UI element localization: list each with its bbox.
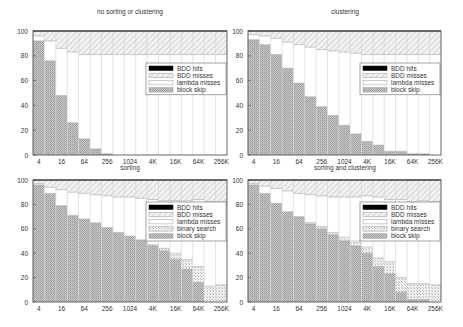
bar-segment: [282, 212, 293, 302]
bar-segment: [316, 31, 327, 50]
y-tick-label: 0: [239, 299, 243, 306]
bar-segment: [271, 38, 282, 54]
bar-segment: [293, 31, 304, 45]
chart-panel-3: 0204060801004166425610244K16K64K256Ksort…: [17, 164, 229, 312]
x-tick-label: 4: [37, 158, 41, 165]
y-tick-label: 60: [236, 225, 244, 232]
bar-segment: [259, 36, 270, 45]
y-tick-label: 20: [236, 274, 244, 281]
bar-segment: [316, 196, 327, 227]
bar-segment: [339, 237, 350, 241]
bar-segment: [282, 68, 293, 155]
bar-segment: [33, 36, 44, 41]
legend-label: BDD hits: [391, 204, 417, 211]
bar-segment: [316, 180, 327, 196]
bar-segment: [259, 193, 270, 302]
bar-segment: [293, 180, 304, 193]
bar-segment: [33, 41, 44, 155]
chart-panel-1: 0204060801004166425610244K16K64K256Kno s…: [17, 8, 229, 165]
bar-segment: [316, 229, 327, 302]
bar-segment: [33, 185, 44, 302]
bar-segment: [216, 31, 227, 55]
legend-swatch: [363, 234, 387, 239]
bar-segment: [362, 253, 373, 302]
bar-segment: [384, 31, 395, 55]
legend-label: BDD misses: [391, 72, 428, 79]
bar-segment: [259, 45, 270, 155]
legend-swatch: [363, 212, 387, 217]
y-tick-label: 60: [21, 77, 29, 84]
chart-title: sorting and clustering: [314, 164, 376, 172]
bar-segment: [170, 180, 181, 201]
bar-segment: [159, 180, 170, 201]
bar-segment: [44, 180, 55, 187]
legend-swatch: [149, 88, 173, 93]
bar-segment: [339, 125, 350, 155]
bar-segment: [305, 180, 316, 195]
legend-swatch: [363, 80, 387, 85]
bar-segment: [339, 180, 350, 197]
bar-segment: [113, 55, 124, 155]
x-tick-label: 256: [102, 305, 113, 312]
y-tick-label: 40: [21, 250, 29, 257]
bar-segment: [396, 278, 407, 293]
legend: BDD hitsBDD misseslambda missesbinary se…: [146, 202, 226, 241]
bar-segment: [124, 55, 135, 155]
bar-segment: [101, 228, 112, 302]
bar-segment: [44, 187, 55, 193]
bar-segment: [282, 31, 293, 42]
bar-segment: [56, 190, 67, 206]
bar-segment: [67, 31, 78, 52]
bar-segment: [373, 180, 384, 197]
bar-segment: [407, 180, 418, 202]
bar-segment: [396, 180, 407, 200]
bar-segment: [204, 31, 215, 55]
legend-swatch: [149, 234, 173, 239]
bar-segment: [339, 31, 350, 52]
x-tick-label: 64K: [193, 158, 205, 165]
legend-label: BDD misses: [177, 72, 214, 79]
legend-label: block skip: [177, 232, 206, 240]
bar-segment: [430, 180, 441, 202]
y-tick-label: 60: [21, 225, 29, 232]
legend: BDD hitsBDD misseslambda missesblock ski…: [146, 63, 226, 95]
x-tick-label: 4: [37, 305, 41, 312]
bar-segment: [271, 189, 282, 204]
x-tick-label: 256: [316, 305, 327, 312]
x-tick-label: 1024: [123, 305, 138, 312]
x-tick-label: 16K: [170, 158, 182, 165]
bar-segment: [90, 55, 101, 149]
bar-segment: [193, 282, 204, 302]
bar-segment: [79, 219, 90, 302]
legend-label: block skip: [391, 232, 420, 240]
bar-segment: [248, 40, 259, 155]
bar-segment: [170, 259, 181, 302]
chart-canvas: 0204060801004166425610244K16K64K256Kno s…: [0, 0, 463, 327]
legend-swatch: [363, 73, 387, 78]
chart-title: sorting: [120, 164, 140, 172]
bar-segment: [259, 180, 270, 186]
bar-segment: [204, 180, 215, 202]
bar-segment: [193, 267, 204, 283]
bar-segment: [373, 267, 384, 302]
bar-segment: [136, 180, 147, 198]
bar-segment: [56, 48, 67, 95]
bar-segment: [418, 180, 429, 201]
bar-segment: [33, 31, 44, 36]
y-tick-label: 0: [24, 152, 28, 159]
bar-segment: [79, 193, 90, 219]
bar-segment: [350, 241, 361, 246]
bar-segment: [79, 180, 90, 193]
bar-segment: [113, 197, 124, 232]
bar-segment: [90, 31, 101, 55]
legend: BDD hitsBDD misseslambda missesblock ski…: [360, 63, 440, 95]
chart-panel-4: 0204060801004166425610244K16K64K256Ksort…: [232, 164, 443, 312]
bar-segment: [181, 259, 192, 269]
bar-segment: [44, 193, 55, 302]
legend-label: block skip: [391, 86, 420, 94]
bar-segment: [373, 258, 384, 267]
bar-segment: [362, 141, 373, 155]
legend-swatch: [363, 205, 387, 210]
bar-segment: [362, 247, 373, 253]
y-tick-label: 0: [24, 299, 28, 306]
